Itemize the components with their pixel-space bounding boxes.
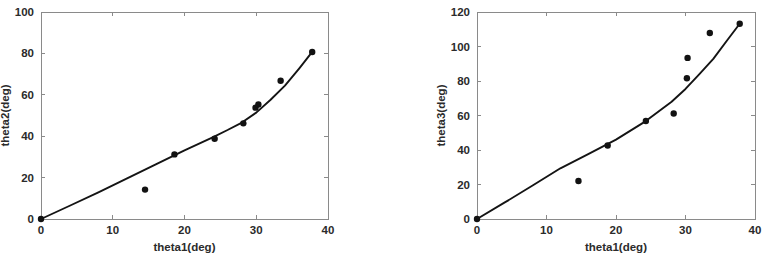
x-tick-label: 10 xyxy=(540,224,553,236)
y-tick-label: 0 xyxy=(464,213,470,225)
x-tick-label: 40 xyxy=(749,224,762,236)
data-point xyxy=(277,78,283,84)
y-axis-right: 020406080100120 xyxy=(451,6,755,225)
chart-svg-right: 010203040020406080100120theta1(deg)theta… xyxy=(383,0,766,261)
y-tick-label: 100 xyxy=(451,41,470,53)
y-tick-label: 60 xyxy=(457,110,470,122)
y-tick-label: 120 xyxy=(451,6,470,18)
y-tick-label: 60 xyxy=(21,89,34,101)
y-tick-label: 20 xyxy=(457,179,470,191)
x-axis-right: 010203040 xyxy=(474,12,762,236)
x-tick-label: 40 xyxy=(322,224,335,236)
y-axis-left: 020406080100 xyxy=(15,6,328,225)
x-tick-label: 30 xyxy=(679,224,692,236)
data-points-left xyxy=(38,49,316,222)
plot-border-right xyxy=(477,12,755,219)
x-tick-label: 20 xyxy=(178,224,191,236)
x-axis-left: 010203040 xyxy=(38,12,335,236)
plot-frame-right xyxy=(477,12,755,219)
data-point xyxy=(575,178,581,184)
data-point xyxy=(684,75,690,81)
data-point xyxy=(142,186,148,192)
y-tick-label: 40 xyxy=(21,130,34,142)
plot-frame-left xyxy=(41,12,328,219)
x-tick-label: 0 xyxy=(38,224,44,236)
chart-panel-right: 010203040020406080100120theta1(deg)theta… xyxy=(383,0,766,261)
x-axis-title: theta1(deg) xyxy=(585,241,647,253)
y-tick-label: 40 xyxy=(457,144,470,156)
x-axis-title: theta1(deg) xyxy=(154,241,216,253)
x-tick-label: 20 xyxy=(610,224,623,236)
data-points-right xyxy=(474,21,743,223)
x-tick-label: 10 xyxy=(106,224,119,236)
fit-curve-left xyxy=(41,52,312,219)
chart-svg-left: 010203040020406080100theta1(deg)theta2(d… xyxy=(0,0,383,261)
x-tick-label: 30 xyxy=(250,224,263,236)
y-tick-label: 0 xyxy=(28,213,34,225)
fit-curve-right xyxy=(477,24,740,219)
y-tick-label: 20 xyxy=(21,172,34,184)
figure-container: 010203040020406080100theta1(deg)theta2(d… xyxy=(0,0,766,261)
y-tick-label: 80 xyxy=(457,75,470,87)
y-axis-title: theta2(deg) xyxy=(0,84,11,146)
plot-border-left xyxy=(41,12,328,219)
data-point xyxy=(670,110,676,116)
data-point xyxy=(684,55,690,61)
data-point xyxy=(255,101,261,107)
y-axis-title: theta3(deg) xyxy=(435,84,447,146)
y-tick-label: 100 xyxy=(15,6,34,18)
data-point xyxy=(707,30,713,36)
y-tick-label: 80 xyxy=(21,47,34,59)
x-tick-label: 0 xyxy=(474,224,480,236)
chart-panel-left: 010203040020406080100theta1(deg)theta2(d… xyxy=(0,0,383,261)
